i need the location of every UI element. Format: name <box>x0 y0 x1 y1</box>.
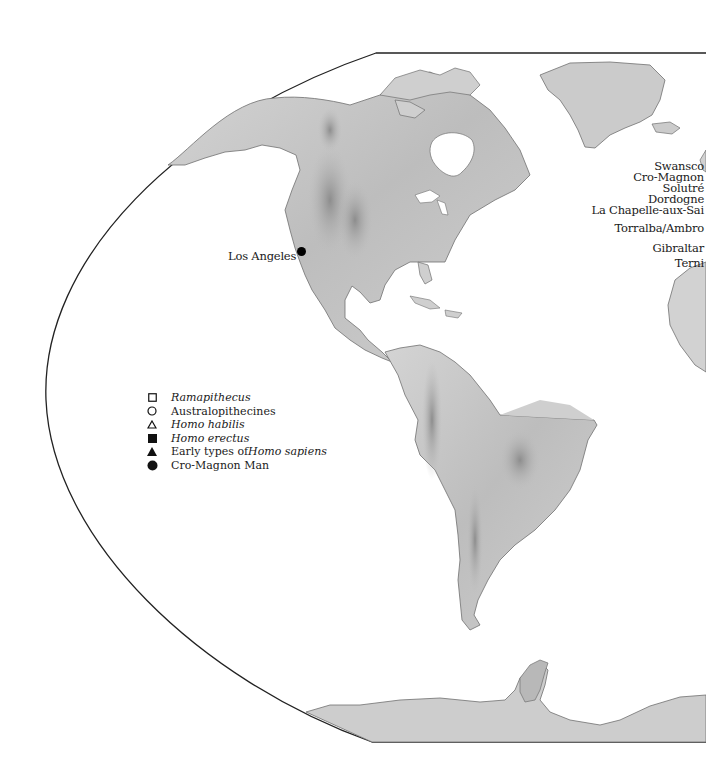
africa-landmass <box>668 262 706 372</box>
filled-triangle-icon <box>146 446 158 458</box>
open-circle-icon <box>146 405 158 417</box>
iceland <box>652 122 680 134</box>
filled-square-icon <box>146 432 158 444</box>
site-label-la-chapelle: La Chapelle-aux-Sai <box>592 204 704 216</box>
cro-magnon-marker-los-angeles[interactable] <box>297 247 306 256</box>
south-america-landmass <box>385 345 597 630</box>
world-map <box>0 0 706 779</box>
site-label-torralba: Torralba/Ambro <box>614 222 704 234</box>
greenland-landmass <box>540 62 665 148</box>
legend-item-homo-erectus: Homo erectus <box>146 432 327 446</box>
antarctica-landmass <box>306 662 706 742</box>
legend-item-early-homo-sapiens: Early types of Homo sapiens <box>146 445 327 459</box>
site-label-ternifine: Terni <box>675 257 704 269</box>
legend-item-ramapithecus: Ramapithecus <box>146 391 327 405</box>
site-label-gibraltar: Gibraltar <box>653 242 704 254</box>
legend-item-australopithecines: Australopithecines <box>146 405 327 419</box>
city-label-los-angeles: Los Angeles <box>228 250 296 262</box>
open-square-icon <box>146 392 158 404</box>
filled-circle-icon <box>146 459 158 471</box>
map-legend: Ramapithecus Australopithecines Homo hab… <box>146 391 327 472</box>
open-triangle-icon <box>146 419 158 431</box>
legend-item-homo-habilis: Homo habilis <box>146 418 327 432</box>
legend-item-cro-magnon-man: Cro-Magnon Man <box>146 459 327 473</box>
caribbean-islands <box>410 296 462 318</box>
